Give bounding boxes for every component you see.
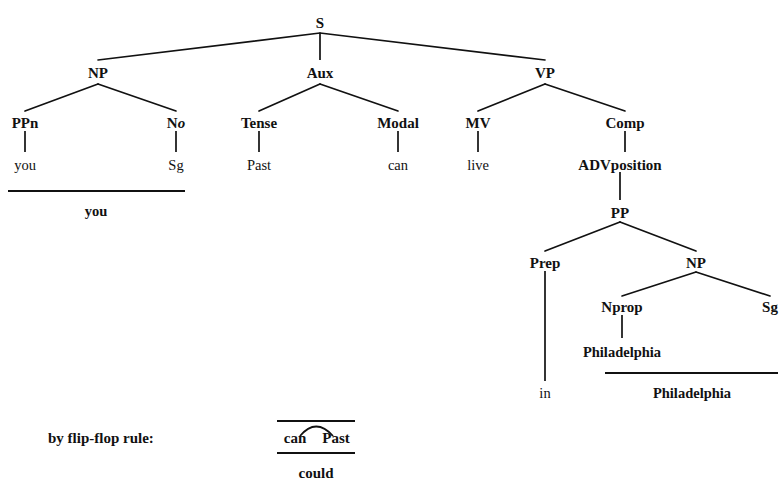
node-prep: Prep — [530, 255, 561, 271]
node-number: No — [167, 115, 185, 131]
flip-flop-result: could — [298, 465, 334, 481]
node-ppn: PPn — [12, 115, 39, 131]
node-advposition: ADVposition — [578, 157, 662, 173]
leaf-can: can — [388, 157, 409, 173]
derived-you: you — [85, 203, 108, 219]
node-mv: MV — [466, 115, 491, 131]
node-sg-object: Sg — [762, 299, 778, 315]
leaf-in: in — [539, 385, 551, 401]
syntax-tree-diagram: S NP Aux VP PPn No Tense Modal MV Comp y… — [0, 0, 783, 494]
branch-np-to-no — [98, 84, 176, 111]
node-modal: Modal — [377, 115, 419, 131]
leaf-you: you — [14, 157, 36, 173]
branch-s-to-np — [98, 33, 320, 60]
flip-flop-right-token: Past — [322, 430, 350, 446]
leaf-past: Past — [247, 157, 271, 173]
node-number-sub: o — [178, 115, 186, 131]
branch-vp-to-comp — [545, 84, 625, 111]
node-vp: VP — [535, 65, 555, 81]
node-s: S — [316, 15, 324, 31]
branches-np-object-level — [622, 272, 770, 296]
flip-flop-left-token: can — [284, 430, 307, 446]
leaf-sg: Sg — [168, 157, 183, 173]
node-pp: PP — [611, 205, 629, 221]
node-number-head: N — [167, 115, 178, 131]
branch-np-object-to-sg — [696, 272, 770, 296]
branch-np-to-ppn — [25, 84, 98, 111]
branch-vp-to-mv — [478, 84, 545, 111]
leaf-philadelphia: Philadelphia — [583, 344, 662, 360]
branches-vp-level — [478, 84, 625, 111]
branch-np-object-to-nprop — [622, 272, 696, 296]
branch-pp-to-np-object — [620, 222, 696, 251]
branch-pp-to-prep — [545, 222, 620, 251]
node-aux: Aux — [307, 65, 334, 81]
branches-aux-level — [259, 84, 398, 111]
branch-aux-to-tense — [259, 84, 320, 111]
branches-pp-level — [545, 222, 696, 251]
node-np-subject: NP — [88, 65, 108, 81]
node-tense: Tense — [241, 115, 277, 131]
node-comp: Comp — [605, 115, 644, 131]
derived-philadelphia: Philadelphia — [653, 385, 732, 401]
node-np-object: NP — [686, 255, 706, 271]
flip-flop-rule-label: by flip-flop rule: — [48, 430, 154, 446]
branches-np-level — [25, 84, 176, 111]
branch-aux-to-modal — [320, 84, 398, 111]
stems-to-terminals — [25, 131, 625, 152]
branches-s-level — [98, 33, 545, 60]
branch-s-to-vp — [320, 33, 545, 60]
node-nprop: Nprop — [601, 299, 642, 315]
leaf-live: live — [467, 157, 489, 173]
